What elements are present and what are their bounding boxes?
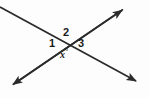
geometry-figure: 2 1 3 x° <box>0 0 149 98</box>
angle-label-2: 2 <box>63 27 69 38</box>
line-ascending-upper-tip <box>15 10 122 83</box>
line-descending <box>0 7 136 81</box>
degree-symbol: ° <box>65 47 68 56</box>
angle-label-1: 1 <box>49 38 55 49</box>
intersecting-lines-svg <box>0 0 149 98</box>
angle-label-3: 3 <box>78 38 84 49</box>
angle-label-x-degrees: x° <box>60 48 68 60</box>
